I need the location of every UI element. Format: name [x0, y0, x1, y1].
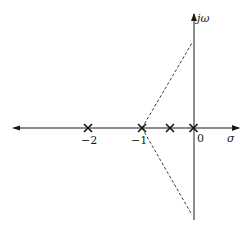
real-axis-left-arrow-icon [12, 126, 20, 131]
s-plane-diagram [0, 0, 247, 231]
origin-label: 0 [197, 133, 204, 144]
asymptote-upper [142, 43, 192, 128]
asymptote-lower [142, 128, 192, 215]
real-axis-label: σ [227, 133, 235, 144]
imaginary-axis-label: jω [197, 13, 209, 24]
tick-label-minus-2: −2 [81, 135, 97, 146]
tick-label-minus-1: −1 [131, 135, 147, 146]
